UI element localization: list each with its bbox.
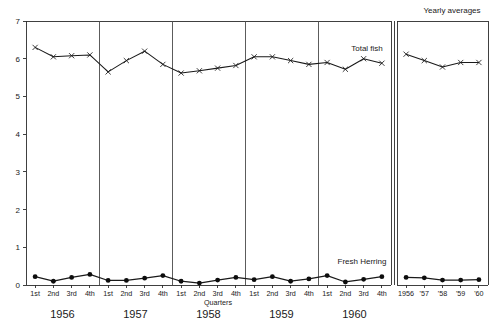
data-point-fresh-herring (233, 275, 238, 280)
total-fish-series-label: Total fish (351, 44, 383, 53)
y-axis-tick-label: 0 (16, 281, 21, 290)
quarter-tick-label: 1st (30, 289, 40, 298)
year-group-label: 1956 (50, 308, 74, 320)
yearly-average-tick-label: '59 (456, 289, 465, 298)
quarter-tick-label: 2nd (47, 289, 59, 298)
y-axis: 01234567 (16, 17, 26, 290)
x-axis-tick-marks (35, 285, 479, 288)
y-axis-tick-label: 6 (16, 55, 21, 64)
data-point-fresh-herring-avg (440, 278, 445, 283)
x-axis-category-labels: 1st2nd3rd4th1st2nd3rd4th1st2nd3rd4th1st2… (30, 289, 483, 298)
x-axis-year-labels: 19561957195819591960 (50, 308, 366, 320)
data-point-total-fish (106, 69, 111, 74)
y-axis-tick-label: 7 (16, 17, 21, 26)
quarter-tick-label: 3rd (139, 289, 149, 298)
data-point-fresh-herring (160, 273, 165, 278)
quarter-tick-label: 1st (176, 289, 186, 298)
yearly-average-tick-label: '60 (474, 289, 483, 298)
x-axis-title: Quarters (204, 298, 232, 307)
y-axis-tick-label: 1 (16, 243, 21, 252)
chart-container: 01234567 1st2nd3rd4th1st2nd3rd4th1st2nd3… (0, 0, 493, 326)
yearly-average-tick-label: 1956 (398, 289, 414, 298)
quarter-tick-label: 4th (377, 289, 387, 298)
data-point-total-fish (124, 58, 129, 63)
data-point-fresh-herring (215, 278, 220, 283)
quarter-tick-label: 4th (158, 289, 168, 298)
data-point-total-fish (142, 49, 147, 54)
data-point-fresh-herring-avg (477, 277, 482, 282)
data-point-fresh-herring-avg (404, 275, 409, 280)
quarter-tick-label: 4th (231, 289, 241, 298)
year-group-label: 1958 (196, 308, 220, 320)
yearly-average-tick-label: '58 (438, 289, 447, 298)
data-point-fresh-herring (106, 278, 111, 283)
y-axis-tick-label: 5 (16, 92, 21, 101)
quarter-tick-label: 1st (322, 289, 332, 298)
data-point-fresh-herring (87, 272, 92, 277)
data-point-total-fish-avg (422, 58, 427, 63)
data-point-total-fish-avg (404, 52, 409, 57)
series-path-total-fish (406, 54, 479, 67)
panel-dividers (99, 21, 318, 285)
y-axis-tick-label: 4 (16, 130, 21, 139)
quarter-tick-label: 3rd (212, 289, 222, 298)
quarter-tick-label: 4th (85, 289, 95, 298)
data-point-fresh-herring (361, 277, 366, 282)
data-series (33, 45, 482, 286)
yearly-averages-title: Yearly averages (423, 6, 480, 15)
year-group-label: 1957 (123, 308, 147, 320)
data-point-fresh-herring (197, 281, 202, 286)
data-point-fresh-herring (325, 273, 330, 278)
data-point-fresh-herring-avg (458, 278, 463, 283)
y-axis-tick-label: 3 (16, 168, 21, 177)
data-point-fresh-herring (69, 275, 74, 280)
data-point-fresh-herring (288, 279, 293, 284)
data-point-fresh-herring (252, 277, 257, 282)
data-point-fresh-herring (51, 279, 56, 284)
data-point-fresh-herring (306, 277, 311, 282)
data-point-total-fish (33, 45, 38, 50)
quarter-tick-label: 3rd (285, 289, 295, 298)
quarter-tick-label: 2nd (193, 289, 205, 298)
yearly-average-tick-label: '57 (420, 289, 429, 298)
fresh-herring-series-label: Fresh Herring (338, 257, 387, 266)
quarter-tick-label: 1st (249, 289, 259, 298)
quarter-tick-label: 4th (304, 289, 314, 298)
data-point-total-fish (343, 67, 348, 72)
quarter-tick-label: 2nd (339, 289, 351, 298)
data-point-fresh-herring (33, 274, 38, 279)
quarter-tick-label: 3rd (358, 289, 368, 298)
data-point-fresh-herring (124, 278, 129, 283)
data-point-fresh-herring-avg (422, 275, 427, 280)
quarter-tick-label: 3rd (66, 289, 76, 298)
quarter-tick-label: 2nd (266, 289, 278, 298)
fish-landings-line-chart: 01234567 1st2nd3rd4th1st2nd3rd4th1st2nd3… (0, 0, 493, 326)
data-point-fresh-herring (142, 276, 147, 281)
data-point-fresh-herring (270, 274, 275, 279)
quarter-tick-label: 1st (103, 289, 113, 298)
series-path-fresh-herring (35, 274, 382, 283)
y-axis-tick-label: 2 (16, 206, 21, 215)
data-point-fresh-herring (343, 280, 348, 285)
quarter-tick-label: 2nd (120, 289, 132, 298)
data-point-fresh-herring (379, 274, 384, 279)
data-point-fresh-herring (179, 279, 184, 284)
year-group-label: 1960 (342, 308, 366, 320)
year-group-label: 1959 (269, 308, 293, 320)
data-point-total-fish (160, 62, 165, 67)
